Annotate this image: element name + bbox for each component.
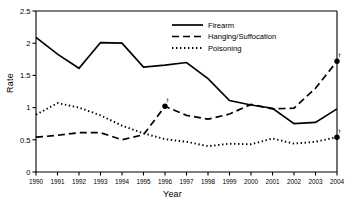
- series-line-hanging-suffocation: [36, 61, 337, 140]
- y-tick-label: 2: [26, 39, 30, 48]
- x-tick-label: 1995: [136, 178, 151, 185]
- y-tick-label: 0.5: [20, 136, 31, 145]
- series-line-firearm: [36, 37, 337, 123]
- data-point-marker: [162, 104, 167, 109]
- x-tick-label: 1997: [179, 178, 194, 185]
- x-tick-label: 1990: [29, 178, 44, 185]
- marker-footnote-dagger: †: [338, 127, 342, 135]
- chart-figure: 00.511.522.5 199019911992199319941995199…: [0, 0, 345, 207]
- x-tick-label: 2000: [244, 178, 259, 185]
- axis-layer: [36, 11, 337, 172]
- data-point-marker: [334, 59, 339, 64]
- x-tick-label: 1992: [72, 178, 87, 185]
- marker-footnote-dagger: †: [338, 51, 342, 59]
- y-tick-label: 1.5: [20, 71, 31, 80]
- x-tick-label: 2002: [287, 178, 302, 185]
- y-tick-label: 0: [26, 168, 30, 177]
- y-tick-label: 1: [26, 103, 30, 112]
- y-axis-label: Rate: [5, 61, 15, 105]
- line-chart-svg: 00.511.522.5 199019911992199319941995199…: [0, 0, 345, 207]
- x-tick-label: 1994: [115, 178, 130, 185]
- data-point-marker: [334, 135, 339, 140]
- x-tick-label: 1991: [50, 178, 65, 185]
- y-tick-label: 2.5: [20, 7, 31, 16]
- x-tick-label: 1996: [158, 178, 173, 185]
- series-line-poisoning: [36, 103, 337, 146]
- x-tick-label: 2001: [265, 178, 280, 185]
- legend-label: Hanging/Suffocation: [208, 32, 276, 41]
- chart-legend: FirearmHanging/SuffocationPoisoning: [172, 21, 276, 53]
- x-tick-label: 1998: [201, 178, 216, 185]
- data-series-layer: [36, 37, 337, 146]
- x-axis-label: Year: [0, 189, 345, 199]
- x-tick-label: 2004: [330, 178, 345, 185]
- x-axis-ticks: 1990199119921993199419951996199719981999…: [29, 172, 345, 185]
- x-tick-label: 1999: [222, 178, 237, 185]
- y-axis-ticks: 00.511.522.5: [20, 7, 36, 177]
- x-tick-label: 1993: [93, 178, 108, 185]
- marker-footnote-dagger: †: [166, 96, 170, 104]
- legend-label: Firearm: [208, 21, 234, 30]
- legend-label: Poisoning: [208, 44, 241, 53]
- x-tick-label: 2003: [308, 178, 323, 185]
